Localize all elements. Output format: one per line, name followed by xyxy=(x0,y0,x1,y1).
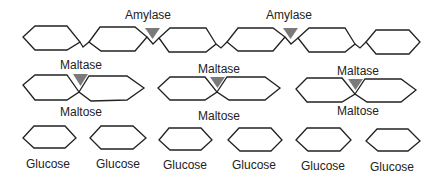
amylase-label: Amylase xyxy=(266,8,312,22)
glucose-label: Glucose xyxy=(301,159,345,173)
glucose-label: Glucose xyxy=(163,158,207,172)
glucose-molecule: Glucose xyxy=(296,128,351,173)
glucose-label: Glucose xyxy=(370,160,414,174)
glycosidic-bond xyxy=(355,42,366,48)
glucose-unit xyxy=(159,128,212,150)
glucose-unit xyxy=(23,75,79,100)
glucose-label: Glucose xyxy=(96,157,140,171)
glucose-label: Glucose xyxy=(26,157,70,171)
maltase-label: Maltase xyxy=(337,64,379,78)
glucose-unit xyxy=(23,26,80,50)
glucose-unit xyxy=(355,79,416,102)
maltose-label: Maltose xyxy=(337,104,379,118)
maltase-label: Maltase xyxy=(60,58,102,72)
glucose-unit xyxy=(79,76,144,101)
glycosidic-bond xyxy=(80,42,89,47)
glucose-unit xyxy=(227,28,285,51)
glucose-unit xyxy=(296,78,355,102)
glucose-molecule: Glucose xyxy=(90,126,146,171)
glycosidic-bond xyxy=(216,42,227,48)
glucose-molecule: Glucose xyxy=(228,128,282,172)
digestion-diagram: Amylase Amylase Maltase Maltose Maltase … xyxy=(0,0,440,177)
maltose-pair: Maltase Maltose xyxy=(158,62,280,123)
starch-chain xyxy=(23,26,420,54)
glucose-unit xyxy=(89,27,147,51)
glucose-unit xyxy=(296,128,351,151)
maltose-label: Maltose xyxy=(60,105,102,119)
glucose-unit xyxy=(298,28,355,52)
glucose-unit xyxy=(228,128,282,151)
glucose-unit xyxy=(366,129,420,151)
glucose-unit xyxy=(90,126,146,149)
maltase-label: Maltase xyxy=(198,62,240,76)
glucose-label: Glucose xyxy=(232,158,276,172)
glucose-unit xyxy=(159,28,216,52)
maltose-pair: Maltase Maltose xyxy=(23,58,144,119)
glucose-molecule: Glucose xyxy=(23,126,76,171)
glucose-molecule: Glucose xyxy=(159,128,212,172)
glucose-unit xyxy=(217,77,280,100)
glucose-molecule: Glucose xyxy=(366,129,420,174)
glucose-unit xyxy=(158,77,217,100)
amylase-label: Amylase xyxy=(125,8,171,22)
glycosidic-bond xyxy=(285,37,298,44)
glucose-unit xyxy=(23,126,76,148)
maltose-pair: Maltase Maltose xyxy=(296,64,416,118)
maltose-label: Maltose xyxy=(198,109,240,123)
glucose-unit xyxy=(366,30,420,54)
